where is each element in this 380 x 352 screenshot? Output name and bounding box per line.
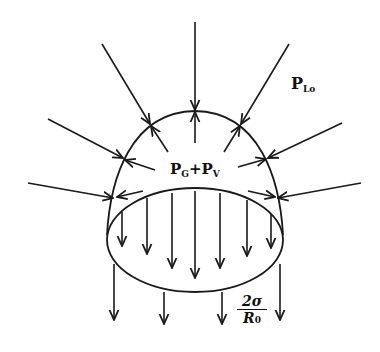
outer-pressure-label: PLo xyxy=(291,74,315,94)
fraction-denominator: R0 xyxy=(237,310,267,329)
inner-pressure-arrows xyxy=(117,112,275,197)
outer-pressure-symbol: P xyxy=(291,74,303,93)
fraction-numerator: 2σ xyxy=(237,293,267,310)
base-downward-arrows xyxy=(122,191,271,278)
gas-pressure-subscript: G xyxy=(181,169,189,179)
gas-pressure-symbol: P xyxy=(170,160,181,178)
radius-symbol: R xyxy=(243,310,255,326)
bubble-pressure-diagram: PLo PG+PV 2σ R0 xyxy=(0,0,380,352)
outer-pressure-subscript: Lo xyxy=(303,84,315,94)
vapor-pressure-symbol: P xyxy=(202,160,213,178)
surface-tension-fraction: 2σ R0 xyxy=(237,293,267,329)
plus-sign: + xyxy=(189,160,202,178)
inner-pressure-label: PG+PV xyxy=(170,160,220,179)
vapor-pressure-subscript: V xyxy=(213,169,220,179)
radius-subscript: 0 xyxy=(255,315,261,325)
